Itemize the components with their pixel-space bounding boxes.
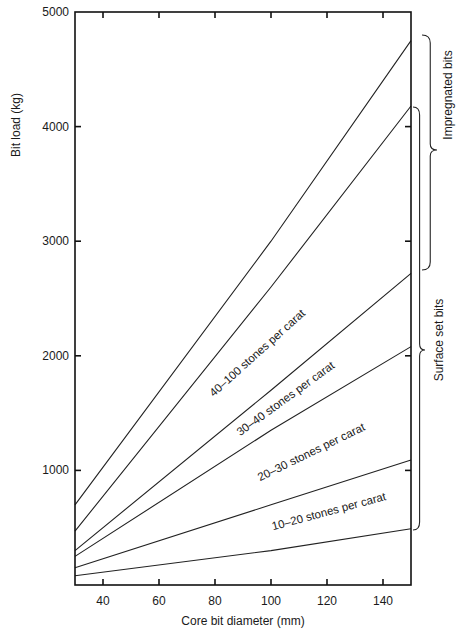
x-tick-label: 100: [261, 594, 281, 608]
x-tick-label: 60: [152, 594, 166, 608]
x-tick-label: 120: [317, 594, 337, 608]
series-line-4: [75, 347, 411, 557]
chart-canvas: 406080100120140 10002000300040005000 40–…: [0, 0, 470, 634]
y-tick-label: 3000: [42, 234, 69, 248]
x-axis-title: Core bit diameter (mm): [181, 614, 304, 628]
y-tick-label: 2000: [42, 349, 69, 363]
line-annotation: 30–40 stones per carat: [234, 359, 337, 438]
group-braces: [413, 35, 437, 530]
y-axis-title: Bit load (kg): [9, 93, 23, 157]
y-tick-labels: 10002000300040005000: [42, 5, 69, 477]
x-tick-label: 40: [96, 594, 110, 608]
line-annotations: 40–100 stones per carat30–40 stones per …: [207, 306, 388, 532]
series-line-6: [75, 529, 411, 576]
x-tick-label: 140: [373, 594, 393, 608]
chart: 406080100120140 10002000300040005000 40–…: [0, 0, 470, 634]
surface-set-bits-brace: [413, 107, 425, 530]
impregnated-bits-brace: [422, 35, 437, 270]
y-tick-label: 5000: [42, 5, 69, 19]
surface-set-bits-label: Surface set bits: [432, 299, 446, 382]
series-line-5: [75, 460, 411, 568]
y-tick-label: 4000: [42, 120, 69, 134]
x-tick-labels: 406080100120140: [96, 594, 393, 608]
series-line-3: [75, 273, 411, 550]
series-line-2: [75, 106, 411, 531]
line-annotation: 10–20 stones per carat: [270, 490, 388, 532]
impregnated-bits-label: Impregnated bits: [441, 50, 455, 139]
y-tick-label: 1000: [42, 463, 69, 477]
x-tick-label: 80: [208, 594, 222, 608]
